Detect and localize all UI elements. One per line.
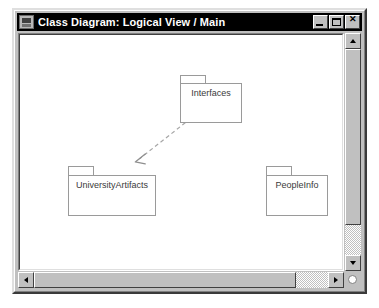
package-interfaces[interactable]: Interfaces <box>180 75 242 123</box>
close-icon: ✕ <box>346 15 359 24</box>
dependency-line <box>139 118 191 159</box>
close-button[interactable]: ✕ <box>345 15 360 29</box>
maximize-button[interactable] <box>329 15 344 29</box>
horizontal-scroll-thumb[interactable] <box>34 272 296 288</box>
relationship-layer <box>20 35 342 269</box>
scroll-down-arrow-icon <box>350 261 356 265</box>
scroll-up-arrow-icon <box>350 39 356 43</box>
diagram-canvas[interactable]: Interfaces UniversityArtifacts P <box>20 35 342 269</box>
scroll-left-button[interactable] <box>18 272 34 288</box>
minimize-icon <box>316 24 323 26</box>
package-university-artifacts[interactable]: UniversityArtifacts <box>68 166 156 216</box>
screenshot-root: Class Diagram: Logical View / Main ✕ <box>0 0 379 308</box>
maximize-icon <box>332 18 341 26</box>
window-title: Class Diagram: Logical View / Main <box>38 16 313 28</box>
dependency-interfaces-to-universityartifacts <box>135 118 191 164</box>
scroll-down-button[interactable] <box>345 255 361 271</box>
package-people-info[interactable]: PeopleInfo <box>266 166 328 216</box>
diagram-document-icon[interactable] <box>19 15 34 29</box>
resize-grip-dot <box>348 275 357 284</box>
package-label: UniversityArtifacts <box>68 180 156 190</box>
window-client-area: Interfaces UniversityArtifacts P <box>18 33 361 288</box>
package-label: Interfaces <box>180 88 242 98</box>
diagram-canvas-bevel: Interfaces UniversityArtifacts P <box>19 34 343 270</box>
vertical-scrollbar[interactable] <box>345 33 361 271</box>
vertical-scroll-thumb[interactable] <box>345 49 361 225</box>
scroll-right-button[interactable] <box>328 272 344 288</box>
scroll-up-button[interactable] <box>345 33 361 49</box>
scroll-right-arrow-icon <box>334 277 338 283</box>
scroll-left-arrow-icon <box>24 277 28 283</box>
window-titlebar[interactable]: Class Diagram: Logical View / Main ✕ <box>17 13 362 31</box>
resize-grip[interactable] <box>345 272 361 288</box>
diagram-canvas-well: Interfaces UniversityArtifacts P <box>18 33 344 271</box>
horizontal-scrollbar[interactable] <box>18 272 344 288</box>
minimize-button[interactable] <box>313 15 328 29</box>
diagram-window: Class Diagram: Logical View / Main ✕ <box>12 8 367 294</box>
dependency-arrowhead <box>135 154 145 164</box>
window-controls: ✕ <box>313 15 360 29</box>
package-label: PeopleInfo <box>266 180 328 190</box>
